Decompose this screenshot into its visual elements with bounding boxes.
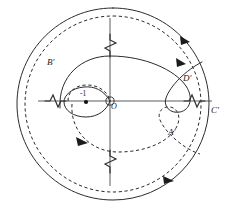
contour-diagram-figure: B' D' C' A' -1 O (0, 0, 233, 220)
diagram-canvas: B' D' C' A' -1 O (0, 0, 233, 220)
arrow-upper-spiral-icon (176, 58, 186, 67)
label-d-prime: D' (182, 73, 192, 83)
point-minus-one-dot (84, 100, 88, 104)
branch-cut-upper-vertical-icon (105, 34, 116, 57)
branch-cut-right-horizontal-icon (184, 95, 205, 107)
branch-cut-left-horizontal-icon (45, 95, 66, 107)
label-origin: O (111, 102, 117, 111)
label-minus-one: -1 (80, 89, 86, 98)
arrow-outer-dashed-upper-right-icon (180, 36, 190, 45)
label-c-prime: C' (211, 105, 220, 115)
label-a-prime: A' (167, 127, 176, 137)
arrow-lower-dashed-left-icon (76, 137, 88, 146)
label-b-prime: B' (47, 57, 55, 67)
branch-cut-lower-vertical-icon (105, 150, 116, 173)
